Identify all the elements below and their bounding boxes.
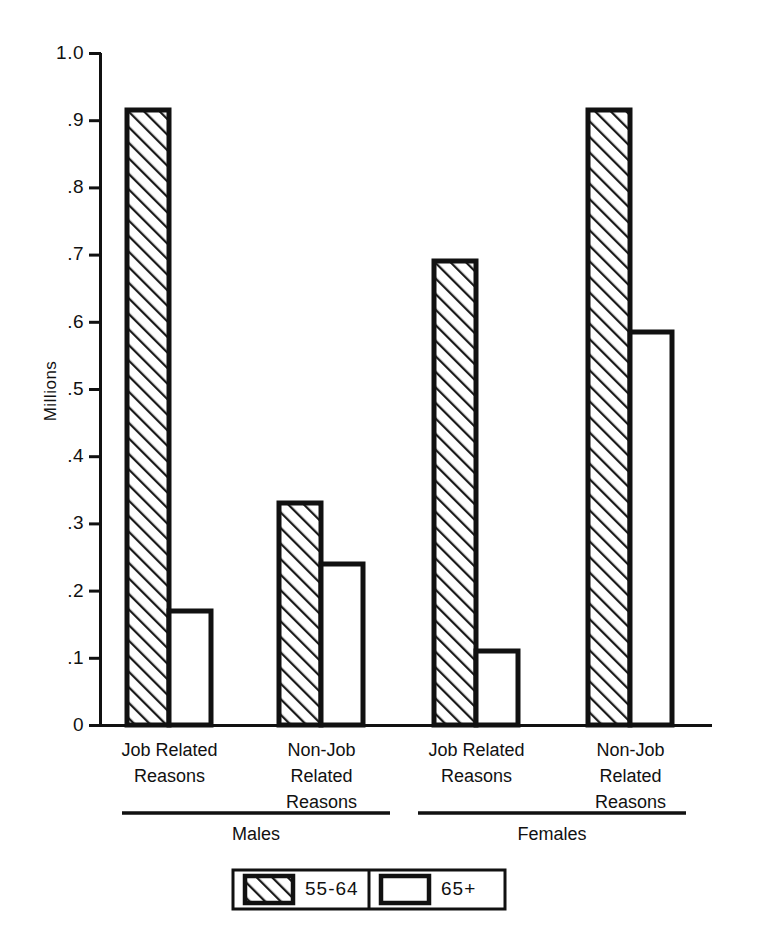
bar-females-nonjob-55-64 [588, 110, 630, 725]
legend-swatch-55-64 [245, 876, 293, 903]
y-tick-label-0: 0 [20, 714, 84, 736]
bar-females-job-55-64 [434, 261, 476, 725]
legend-label-65plus: 65+ [441, 878, 476, 900]
y-tick-label-0.7: .7 [20, 243, 84, 265]
category-label-females-job: Job Related Reasons [389, 737, 564, 789]
y-tick-label-0.1: .1 [20, 647, 84, 669]
category-label-females-nonjob: Non-Job Related Reasons [543, 737, 718, 815]
y-tick-label-0.3: .3 [20, 512, 84, 534]
bar-males-nonjob-55-64 [279, 503, 321, 725]
bar-chart-figure: Millions 1.0 .9 .8 .7 .6 .5 .4 .3 .2 .1 … [0, 0, 758, 950]
bar-males-nonjob-65plus [321, 564, 363, 725]
y-tick-label-0.9: .9 [20, 109, 84, 131]
bar-males-job-55-64 [127, 110, 169, 725]
y-tick-label-1.0: 1.0 [20, 42, 84, 64]
bar-females-job-65plus [476, 651, 518, 725]
y-tick-label-0.2: .2 [20, 580, 84, 602]
legend-label-55-64: 55-64 [305, 878, 359, 900]
legend-swatch-65plus [381, 876, 429, 903]
category-label-males-job: Job Related Reasons [82, 737, 257, 789]
bar-females-nonjob-65plus [630, 332, 672, 725]
category-label-males-nonjob: Non-Job Related Reasons [234, 737, 409, 815]
y-tick-label-0.4: .4 [20, 445, 84, 467]
group-label-females: Females [462, 824, 642, 845]
group-label-males: Males [166, 824, 346, 845]
y-tick-label-0.8: .8 [20, 176, 84, 198]
bar-males-job-65plus [169, 611, 211, 725]
y-tick-label-0.5: .5 [20, 378, 84, 400]
y-tick-label-0.6: .6 [20, 311, 84, 333]
